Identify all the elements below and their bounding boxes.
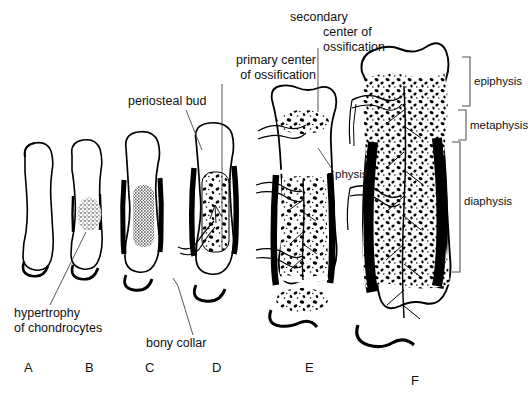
stage-letter-a: A <box>24 360 33 375</box>
stage-d-bone <box>178 123 236 302</box>
label-secondary-center-line1: secondary <box>290 10 348 25</box>
stage-letter-f: F <box>411 373 419 388</box>
label-secondary-center: center of ossification <box>323 25 385 54</box>
stage-letter-b: B <box>85 360 94 375</box>
bracket-epiphysis <box>462 57 470 106</box>
stage-c-bone <box>123 132 162 291</box>
stage-letter-c: C <box>145 360 154 375</box>
stage-letter-d: D <box>212 360 221 375</box>
label-metaphysis: metaphysis <box>470 118 528 133</box>
label-periosteal-bud: periosteal bud <box>128 94 207 109</box>
label-physis: physis <box>335 167 368 182</box>
label-diaphysis: diaphysis <box>464 194 512 209</box>
label-bony-collar: bony collar <box>146 336 206 351</box>
stage-f-bone <box>347 43 450 346</box>
label-primary-center: primary center of ossification <box>206 53 316 82</box>
stage-b-bone <box>71 140 102 280</box>
label-hypertrophy-of-chondrocytes: hypertrophy of chondrocytes <box>14 306 102 335</box>
leader-bony-collar <box>178 286 193 335</box>
bracket-diaphysis <box>452 142 460 272</box>
bracket-metaphysis <box>458 110 466 140</box>
stage-letter-e: E <box>305 360 314 375</box>
stage-a-bone <box>23 143 53 277</box>
stage-e-bone <box>256 85 337 327</box>
label-epiphysis: epiphysis <box>474 74 522 89</box>
